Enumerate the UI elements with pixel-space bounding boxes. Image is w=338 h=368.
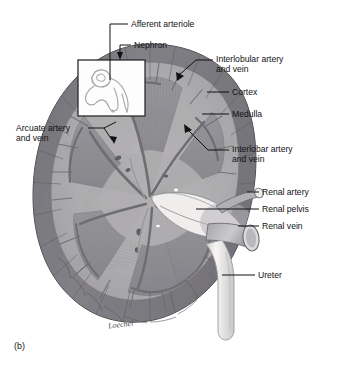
- label-medulla: Medulla: [232, 109, 262, 119]
- figure-caption: (b): [14, 341, 25, 351]
- kidney-figure: [0, 0, 338, 368]
- label-interlobular-artery-and-vein: Interlobular arteryand vein: [216, 54, 283, 74]
- label-renal-pelvis: Renal pelvis: [262, 204, 309, 214]
- label-nephron: Nephron: [134, 40, 167, 50]
- label-renal-artery: Renal artery: [262, 187, 309, 197]
- label-cortex: Cortex: [232, 87, 257, 97]
- label-arcuate-artery-and-vein: Arcuate arteryand vein: [16, 123, 70, 143]
- label-renal-vein: Renal vein: [262, 221, 303, 231]
- kidney-illustration: [0, 0, 338, 368]
- nephron-inset: [78, 60, 145, 116]
- label-ureter: Ureter: [258, 270, 282, 280]
- nephron-inset-box: [78, 60, 145, 116]
- label-afferent-arteriole: Afferent arteriole: [131, 19, 194, 29]
- label-interlobar-artery-and-vein: Interlobar arteryand vein: [232, 144, 293, 164]
